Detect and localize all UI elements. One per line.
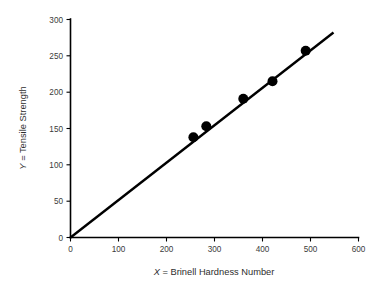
- x-axis-title-rest: = Brinell Hardness Number: [160, 267, 274, 277]
- data-point: [201, 121, 211, 131]
- x-tick-label-500: 500: [304, 245, 318, 254]
- x-tick-label-100: 100: [112, 245, 126, 254]
- x-tick-label-200: 200: [160, 245, 174, 254]
- regression-line: [71, 33, 334, 238]
- data-point: [268, 76, 278, 86]
- y-axis-tick-labels: 0 50 100 150 200 250 300: [49, 16, 63, 243]
- data-point: [301, 46, 311, 56]
- x-tick-label-600: 600: [352, 245, 366, 254]
- y-tick-label-200: 200: [49, 88, 63, 97]
- scatter-chart-figure: 0 50 100 150 200 250 300 0 100 200 300 4…: [0, 0, 381, 289]
- chart-canvas: 0 50 100 150 200 250 300 0 100 200 300 4…: [0, 0, 381, 289]
- y-tick-label-100: 100: [49, 161, 63, 170]
- data-point-group: [188, 46, 310, 143]
- x-tick-label-0: 0: [68, 245, 73, 254]
- x-axis-title: X = Brinell Hardness Number: [153, 267, 275, 277]
- data-point: [238, 94, 248, 104]
- y-tick-label-250: 250: [49, 52, 63, 61]
- y-axis-title: Y = Tensile Strength: [18, 86, 28, 169]
- y-tick-label-0: 0: [58, 234, 63, 243]
- y-tick-label-50: 50: [54, 197, 64, 206]
- y-tick-label-300: 300: [49, 16, 63, 25]
- x-axis-tick-labels: 0 100 200 300 400 500 600: [68, 245, 366, 254]
- data-point: [188, 132, 198, 142]
- x-tick-label-400: 400: [256, 245, 270, 254]
- y-tick-label-150: 150: [49, 125, 63, 134]
- y-axis-title-rest: = Tensile Strength: [18, 86, 28, 163]
- x-tick-label-300: 300: [208, 245, 222, 254]
